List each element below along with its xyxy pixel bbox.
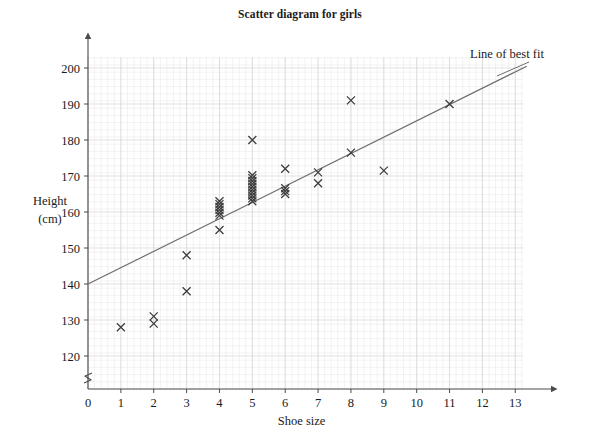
x-tick-label: 3 (183, 396, 189, 410)
y-tick-label: 190 (61, 98, 80, 112)
x-tick-label: 0 (85, 396, 91, 410)
x-tick-label: 4 (216, 396, 223, 410)
grid-minor (88, 57, 523, 389)
scatter-diagram-figure: Scatter diagram for girls 12013014015016… (0, 0, 600, 444)
x-tick-label: 13 (509, 396, 522, 410)
x-tick-label: 10 (410, 396, 423, 410)
y-tick-label: 150 (61, 242, 80, 256)
y-axis-label-line2: (cm) (38, 212, 62, 226)
y-tick-label: 180 (61, 134, 80, 148)
y-tick-label: 140 (61, 278, 80, 292)
x-tick-label: 11 (444, 396, 456, 410)
best-fit-annotation-label: Line of best fit (470, 47, 544, 61)
x-tick-label: 9 (381, 396, 387, 410)
y-axis-ticks: 120130140150160170180190200 (61, 62, 88, 364)
y-tick-label: 130 (61, 314, 80, 328)
y-tick-label: 120 (61, 350, 80, 364)
x-axis-ticks: 012345678910111213 (85, 389, 522, 410)
x-tick-label: 8 (348, 396, 354, 410)
x-tick-label: 1 (118, 396, 124, 410)
y-tick-label: 200 (61, 62, 80, 76)
x-tick-label: 2 (151, 396, 157, 410)
y-axis-label-line1: Height (33, 194, 68, 208)
x-tick-label: 6 (282, 396, 288, 410)
x-axis-label: Shoe size (278, 414, 326, 428)
grid-major (88, 57, 523, 389)
x-tick-label: 5 (249, 396, 255, 410)
x-tick-label: 7 (315, 396, 321, 410)
best-fit-leader-line (497, 62, 529, 76)
y-tick-label: 170 (61, 170, 80, 184)
plot-canvas: 120130140150160170180190200 012345678910… (0, 0, 600, 444)
x-tick-label: 12 (476, 396, 489, 410)
